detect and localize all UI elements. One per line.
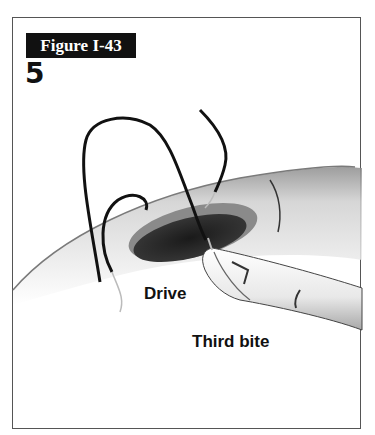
needle-holder [203, 248, 362, 330]
suture-loop-top [200, 110, 226, 192]
suture-tail-left [112, 272, 122, 312]
drive-label: Drive [144, 284, 187, 304]
suture-illustration [0, 0, 375, 435]
third-bite-label: Third bite [192, 332, 269, 352]
